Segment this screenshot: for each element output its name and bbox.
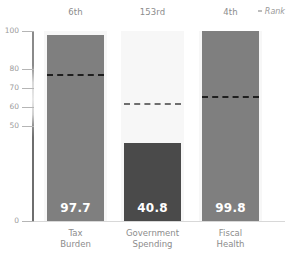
y-axis-tick-label: 0 bbox=[14, 216, 19, 225]
category-label-government-spending: Government Spending bbox=[108, 228, 198, 249]
y-axis-tick-label: 70 bbox=[9, 83, 19, 92]
y-axis-tick: 50 bbox=[22, 126, 34, 127]
y-axis-tick: 60 bbox=[22, 107, 34, 108]
reference-line bbox=[124, 103, 181, 105]
y-axis-tick-label: 60 bbox=[9, 102, 19, 111]
category-label-fiscal-health: Fiscal Health bbox=[186, 228, 276, 249]
y-axis-tick-label: 100 bbox=[5, 26, 19, 35]
bar-value-label: 40.8 bbox=[124, 201, 181, 215]
rank-label-government-spending: 153rd bbox=[113, 7, 193, 17]
bar-value-label: 99.8 bbox=[202, 201, 259, 215]
rank-legend: Rank bbox=[258, 7, 285, 16]
bar-value-label: 97.7 bbox=[47, 201, 104, 215]
bar[interactable]: 99.8 bbox=[202, 31, 259, 221]
y-axis-tick: 0 bbox=[22, 221, 34, 222]
category-label-row: Tax Burden Government Spending Fiscal He… bbox=[0, 228, 287, 257]
rank-label-tax-burden: 6th bbox=[36, 7, 116, 17]
bar[interactable]: 97.7 bbox=[47, 35, 104, 221]
y-axis-tick: 100 bbox=[22, 31, 34, 32]
rank-legend-label: Rank bbox=[265, 7, 285, 16]
bar-chart: 6th 153rd 4th Rank 10080706050097.740.89… bbox=[0, 0, 287, 257]
bar[interactable]: 40.8 bbox=[124, 143, 181, 221]
y-axis-tick-label: 80 bbox=[9, 64, 19, 73]
reference-line bbox=[202, 96, 259, 98]
y-axis-tick: 80 bbox=[22, 69, 34, 70]
plot-area: 10080706050097.740.899.8 bbox=[0, 26, 287, 225]
x-axis-baseline bbox=[32, 221, 285, 222]
reference-line bbox=[47, 74, 104, 76]
y-axis-tick-label: 50 bbox=[9, 121, 19, 130]
rank-legend-marker-icon bbox=[258, 10, 262, 12]
rank-header-row: 6th 153rd 4th Rank bbox=[0, 0, 287, 26]
y-axis-tick: 70 bbox=[22, 88, 34, 89]
